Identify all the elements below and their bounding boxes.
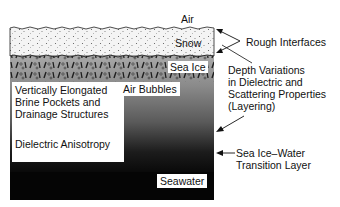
- brine-label-line3: Drainage Structures: [15, 108, 121, 120]
- air-label: Air: [181, 13, 194, 25]
- anisotropy-label: Dielectric Anisotropy: [15, 138, 121, 150]
- transition-layer-label: Sea Ice–Water Transition Layer: [236, 147, 311, 171]
- brine-label-line2: Brine Pockets and: [15, 96, 121, 108]
- brine-label-line1: Vertically Elongated: [15, 84, 121, 96]
- seawater-label: Seawater: [157, 174, 207, 188]
- air-bubbles-label: Air Bubbles: [120, 82, 180, 96]
- depth-variations-label: Depth Variations in Dielectric and Scatt…: [228, 64, 326, 112]
- rough-interfaces-label: Rough Interfaces: [246, 36, 326, 48]
- snow-label: Snow: [175, 37, 201, 49]
- sea-ice-label: Sea Ice: [168, 61, 208, 73]
- brine-pockets-box: Vertically Elongated Brine Pockets and D…: [12, 82, 124, 162]
